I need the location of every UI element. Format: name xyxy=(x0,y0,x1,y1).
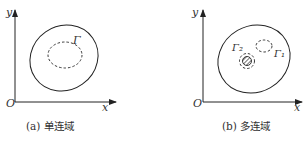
outer-boundary xyxy=(205,12,302,106)
y-axis-label: y xyxy=(192,6,198,19)
gamma1-contour xyxy=(256,40,272,52)
hole xyxy=(243,57,252,66)
outer-boundary xyxy=(17,12,111,105)
gamma1-label: Γ₁ xyxy=(274,48,285,59)
gamma-label: Γ xyxy=(73,34,81,47)
x-axis-label: x xyxy=(294,101,300,114)
panel-multiply-connected: y O x Γ₁ Γ₂ (b) 多连域 xyxy=(154,0,308,143)
simply-connected-diagram xyxy=(0,0,154,143)
y-axis-label: y xyxy=(6,6,12,19)
gamma2-label: Γ₂ xyxy=(232,42,243,53)
panel-simply-connected: y O x Γ (a) 单连域 xyxy=(0,0,154,143)
x-axis-label: x xyxy=(102,101,108,114)
origin-label: O xyxy=(193,97,202,110)
caption-a: (a) 单连域 xyxy=(26,118,74,133)
caption-b: (b) 多连域 xyxy=(222,118,270,133)
origin-label: O xyxy=(6,97,15,110)
